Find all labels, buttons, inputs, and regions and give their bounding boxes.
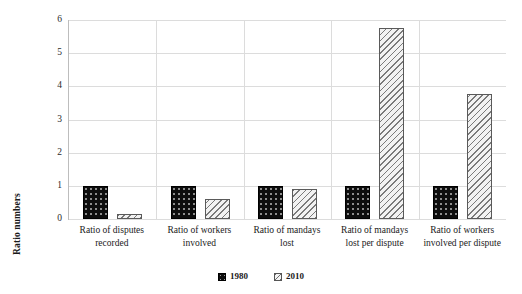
y-axis-tick-label: 0	[57, 214, 62, 224]
bar-1980[interactable]	[83, 186, 108, 219]
plot-area: 0123456	[68, 20, 506, 220]
bar-group	[244, 20, 331, 219]
y-axis-tick-label: 5	[57, 48, 62, 58]
bar-1980[interactable]	[258, 186, 283, 219]
gridline-horizontal	[69, 219, 506, 220]
bar-pair	[244, 20, 331, 219]
bar-group	[419, 20, 506, 219]
y-axis-tick-label: 6	[57, 15, 62, 25]
y-axis-tick-label: 1	[57, 181, 62, 191]
bar-pair	[156, 20, 243, 219]
bar-2010[interactable]	[467, 94, 492, 219]
bar-2010[interactable]	[379, 28, 404, 219]
x-axis-category-label: Ratio of mandays lost per dispute	[331, 224, 419, 250]
bar-chart-figure: Ratio numbers 0123456 Ratio of disputes …	[0, 0, 522, 294]
y-axis-title: Ratio numbers	[6, 124, 28, 294]
bar-group	[69, 20, 156, 219]
bar-group	[331, 20, 418, 219]
bar-pair	[419, 20, 506, 219]
chart-legend: 19802010	[0, 272, 522, 281]
legend-swatch-icon	[218, 273, 226, 281]
x-axis-category-label: Ratio of mandays lost	[243, 224, 331, 250]
legend-entry-1980[interactable]: 1980	[218, 272, 248, 281]
y-axis-tick-label: 3	[57, 115, 62, 125]
bar-1980[interactable]	[433, 186, 458, 219]
bar-groups	[69, 20, 506, 219]
bar-2010[interactable]	[117, 214, 142, 219]
bar-1980[interactable]	[171, 186, 196, 219]
bar-pair	[69, 20, 156, 219]
bar-1980[interactable]	[345, 186, 370, 219]
y-axis-tick-label: 4	[57, 82, 62, 92]
legend-label: 2010	[286, 272, 304, 281]
x-axis-category-label: Ratio of workers involved per dispute	[418, 224, 506, 250]
legend-label: 1980	[230, 272, 248, 281]
bar-group	[156, 20, 243, 219]
x-axis-category-labels: Ratio of disputes recordedRatio of worke…	[68, 224, 506, 250]
y-axis-tick-label: 2	[57, 148, 62, 158]
x-axis-category-label: Ratio of workers involved	[156, 224, 244, 250]
x-axis-category-label: Ratio of disputes recorded	[68, 224, 156, 250]
bar-pair	[331, 20, 418, 219]
bar-2010[interactable]	[292, 189, 317, 219]
legend-swatch-icon	[274, 273, 282, 281]
bar-2010[interactable]	[205, 199, 230, 219]
legend-entry-2010[interactable]: 2010	[274, 272, 304, 281]
